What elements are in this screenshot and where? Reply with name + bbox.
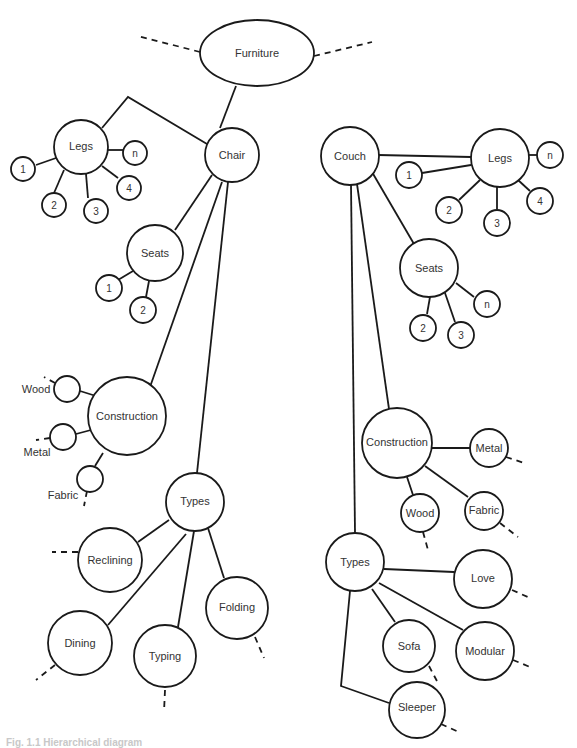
edge-couch-construction-fabric [425, 466, 468, 497]
edge-chair-legs-3 [86, 174, 88, 198]
fabric-continuation [84, 491, 87, 506]
node-label: Types [340, 556, 370, 568]
node-chair-construction-metal[interactable] [50, 424, 76, 450]
node-chair-construction-wood[interactable] [54, 376, 80, 402]
node-couch-seats[interactable]: Seats [400, 239, 458, 297]
node-label: Metal [476, 442, 503, 454]
node-couch-seats-n[interactable]: n [474, 291, 500, 317]
edge-chair-seats-2 [146, 281, 149, 297]
edge-couch-legs [378, 155, 471, 157]
modular-continuation [513, 660, 530, 667]
edge-chair-types [197, 182, 228, 473]
node-label: n [132, 148, 138, 159]
node-label: Folding [219, 601, 255, 613]
node-chair-types-typing[interactable]: Typing [134, 625, 196, 687]
edge-chair-seats [175, 175, 212, 230]
node-label: 1 [406, 170, 412, 181]
node-couch-legs-4[interactable]: 4 [527, 188, 553, 214]
node-couch-construction[interactable]: Construction [362, 408, 432, 478]
node-couch-types-modular[interactable]: Modular [456, 622, 514, 680]
node-label: 3 [93, 206, 99, 217]
node-chair-types-folding[interactable]: Folding [206, 577, 268, 639]
node-chair-legs-4[interactable]: 4 [117, 176, 141, 200]
node-couch-seats-2[interactable]: 2 [410, 315, 436, 341]
node-chair-legs-n[interactable]: n [123, 141, 147, 165]
node-chair-seats-1[interactable]: 1 [96, 275, 122, 301]
node-label: Love [471, 572, 495, 584]
node-label: Construction [96, 410, 158, 422]
edge-couch-construction-wood [407, 477, 413, 495]
edge-couch-types-sofa [372, 589, 395, 622]
node-label: Typing [149, 650, 181, 662]
node-couch[interactable]: Couch [321, 127, 379, 185]
edge-couch-types [351, 184, 355, 533]
node-chair-construction[interactable]: Construction [88, 377, 166, 455]
dining-continuation [36, 665, 55, 680]
edge-chair-construction-fabric [95, 453, 103, 466]
node-chair-legs-1[interactable]: 1 [11, 157, 35, 181]
folding-continuation [255, 637, 264, 658]
node-label: Chair [219, 149, 246, 161]
node-chair-types[interactable]: Types [166, 473, 224, 531]
furniture-continuation-right [314, 42, 372, 56]
sofa-continuation [429, 666, 438, 683]
node-label: Furniture [235, 47, 279, 59]
node-couch-types-love[interactable]: Love [454, 550, 512, 608]
edge-couch-construction [357, 184, 389, 409]
node-chair[interactable]: Chair [205, 128, 259, 182]
node-label: Seats [415, 262, 444, 274]
edge-chair-legs-2 [54, 170, 64, 193]
edge-couch-legs-2 [459, 180, 480, 200]
node-chair-legs[interactable]: Legs [54, 120, 108, 174]
node-couch-construction-metal[interactable]: Metal [470, 429, 508, 467]
node-label: Legs [69, 140, 93, 152]
love-continuation [512, 590, 530, 598]
node-chair-seats-2[interactable]: 2 [130, 297, 156, 323]
node-label: Reclining [87, 554, 132, 566]
node-couch-construction-wood[interactable]: Wood [401, 494, 439, 532]
node-couch-seats-3[interactable]: 3 [448, 322, 474, 348]
edge-chair-legs [102, 97, 207, 144]
figure-caption: Fig. 1.1 Hierarchical diagram [6, 737, 142, 748]
node-chair-types-reclining[interactable]: Reclining [78, 528, 142, 592]
edge-chair-seats-1 [118, 271, 133, 280]
node-label: 4 [126, 183, 132, 194]
node-furniture[interactable]: Furniture [200, 20, 314, 86]
node-label: n [484, 299, 490, 310]
edge-chair-legs-4 [102, 166, 118, 178]
node-couch-legs-1[interactable]: 1 [396, 162, 422, 188]
node-chair-legs-3[interactable]: 3 [84, 199, 108, 223]
edge-couch-seats-n [456, 283, 474, 297]
node-couch-legs-3[interactable]: 3 [484, 210, 510, 236]
node-label: 2 [51, 200, 57, 211]
metal-continuation [36, 438, 50, 440]
edge-chair-types-typing [178, 531, 194, 627]
edge-couch-types-love [384, 569, 454, 572]
edge-chair-legs-1 [36, 158, 56, 165]
node-couch-construction-fabric[interactable]: Fabric [465, 492, 503, 530]
node-couch-legs[interactable]: Legs [471, 129, 529, 187]
label-fabric: Fabric [48, 489, 79, 501]
node-chair-types-dining[interactable]: Dining [48, 611, 112, 675]
node-label: 3 [458, 330, 464, 341]
node-couch-legs-2[interactable]: 2 [436, 197, 462, 223]
node-chair-construction-fabric[interactable] [77, 466, 103, 492]
couch-fabric-continuation [500, 523, 518, 537]
edge-chair-types-reclining [138, 520, 169, 542]
node-label: Fabric [469, 504, 500, 516]
node-label: 2 [140, 305, 146, 316]
label-wood: Wood [22, 383, 51, 395]
node-label: 2 [446, 205, 452, 216]
edge-couch-legs-1 [422, 165, 471, 173]
node-chair-legs-2[interactable]: 2 [42, 193, 66, 217]
node-couch-types-sleeper[interactable]: Sleeper [389, 682, 445, 738]
edge-chair-construction-metal [76, 430, 91, 434]
node-chair-seats[interactable]: Seats [127, 225, 183, 281]
node-couch-legs-n[interactable]: n [537, 142, 563, 168]
node-label: Wood [406, 507, 435, 519]
node-label: Seats [141, 247, 170, 259]
node-label: n [547, 150, 553, 161]
node-couch-types-sofa[interactable]: Sofa [383, 620, 435, 672]
node-couch-types[interactable]: Types [326, 533, 384, 591]
node-label: 3 [494, 218, 500, 229]
